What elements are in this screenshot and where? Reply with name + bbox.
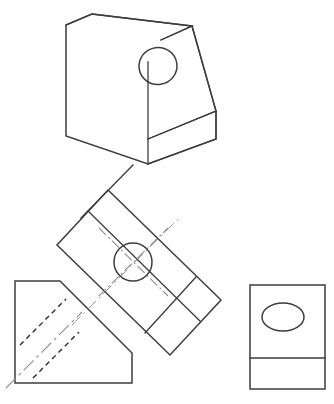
- drawing-canvas: [0, 0, 334, 404]
- right-side-view: [250, 285, 325, 389]
- isometric-view: [66, 14, 216, 164]
- right-view-fill: [250, 285, 325, 389]
- technical-drawing-sheet: [0, 0, 334, 404]
- isometric-left-face-fill: [66, 25, 148, 164]
